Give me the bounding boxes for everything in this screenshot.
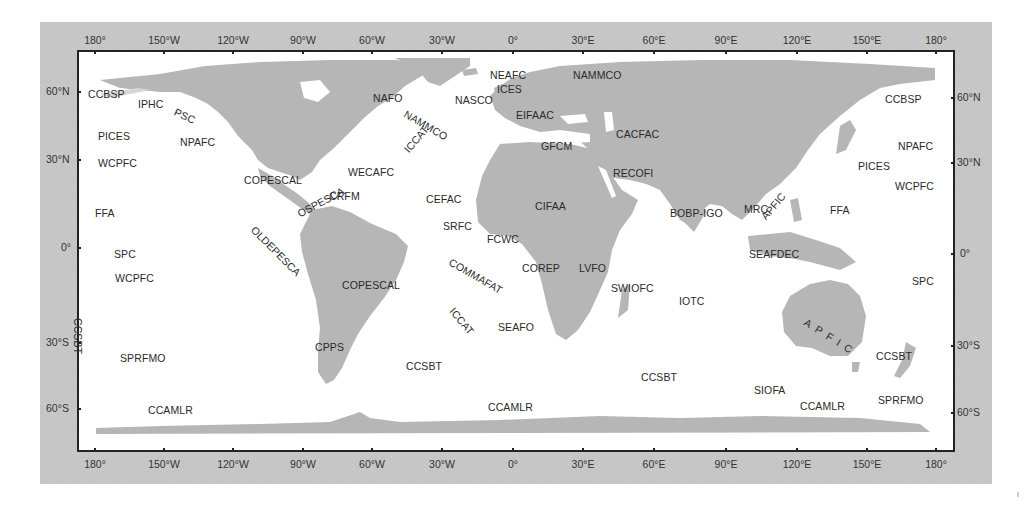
region-label-iphc: IPHC (138, 98, 164, 110)
region-label-recofi: RECOFI (613, 167, 653, 179)
region-label-cefac: CEFAC (426, 193, 462, 205)
lat-label: 0° (960, 247, 970, 259)
tick (653, 448, 655, 452)
tick (796, 50, 798, 54)
region-label-swiofc: SWIOFC (611, 282, 654, 294)
lon-label: 30°E (572, 34, 595, 46)
region-label-lvfo: LVFO (579, 262, 606, 274)
lon-label: 120°W (217, 34, 249, 46)
lon-label: 120°E (783, 458, 812, 470)
tick (935, 50, 937, 54)
tick (725, 448, 727, 452)
lon-label: 30°W (429, 458, 455, 470)
region-label-wcpfc: WCPFC (98, 157, 137, 169)
region-label-ccbsp: CCBSP (885, 93, 922, 105)
tick (77, 91, 81, 93)
lon-label: 60°W (359, 458, 385, 470)
antarctica (96, 412, 930, 434)
region-label-seafo: SEAFO (498, 321, 534, 333)
region-label-ices: ICES (497, 83, 522, 95)
lon-label: 180° (84, 458, 106, 470)
lat-label: 30°N (46, 153, 69, 165)
tick (77, 159, 81, 161)
region-label-siofa: SIOFA (754, 384, 785, 396)
tick (512, 50, 514, 54)
lon-label: 90°W (290, 34, 316, 46)
region-label-ccamlr: CCAMLR (800, 400, 845, 412)
tick (866, 448, 868, 452)
region-label-corep: COREP (522, 262, 560, 274)
region-label-crfm: CRFM (329, 190, 360, 202)
region-label-sprfmo: SPRFMO (120, 352, 166, 364)
region-label-nafo: NAFO (373, 92, 403, 104)
region-label-iotc: IOTC (679, 295, 704, 307)
lon-label: 90°E (715, 458, 738, 470)
lon-label: 120°E (783, 34, 812, 46)
tick (163, 50, 165, 54)
lon-label: 60°W (359, 34, 385, 46)
region-label-wcpfc: WCPFC (115, 272, 154, 284)
region-label-ffa: FFA (830, 204, 850, 216)
region-label-nammco: NAMMCO (573, 69, 621, 81)
region-label-cacfac: CACFAC (616, 128, 659, 140)
lat-label: 60°S (46, 402, 69, 414)
region-label-wcpfc: WCPFC (895, 180, 934, 192)
south-america (300, 206, 408, 384)
tick (302, 50, 304, 54)
lat-label: 30°S (46, 336, 69, 348)
tick (232, 50, 234, 54)
region-label-eifaac: EIFAAC (516, 109, 554, 121)
region-label-ccamlr: CCAMLR (148, 404, 193, 416)
lat-label: 60°N (46, 85, 69, 97)
region-label-copescal: COPESCAL (342, 279, 400, 291)
region-label-srfc: SRFC (443, 220, 472, 232)
region-label-cifaa: CIFAA (535, 200, 566, 212)
region-label-pices: PICES (858, 160, 890, 172)
tick (951, 253, 955, 255)
region-label-ccsbt: CCSBT (876, 350, 912, 362)
tick (582, 50, 584, 54)
region-label-ffa: FFA (95, 207, 115, 219)
north-america (100, 60, 430, 180)
lon-label: 90°E (715, 34, 738, 46)
lon-label: 0° (508, 458, 518, 470)
tick (796, 448, 798, 452)
tick (951, 345, 955, 347)
tick (582, 448, 584, 452)
tick (653, 50, 655, 54)
lon-label: 0° (508, 34, 518, 46)
region-label-gfcm: GFCM (541, 140, 572, 152)
tick (94, 50, 96, 54)
tick (866, 50, 868, 54)
region-label-ccbsp: CCBSP (88, 88, 125, 100)
region-label-spc: SPC (912, 275, 934, 287)
tick (77, 408, 81, 410)
tick (441, 448, 443, 452)
lat-label: 0° (61, 241, 71, 253)
tick (371, 50, 373, 54)
tick (725, 50, 727, 54)
region-label-ccamlr: CCAMLR (488, 401, 533, 413)
region-label-npafc: NPAFC (180, 136, 215, 148)
tick (77, 247, 81, 249)
tick (512, 448, 514, 452)
tick (94, 448, 96, 452)
lat-label: 30°S (957, 339, 980, 351)
lon-label: 120°W (217, 458, 249, 470)
lon-label: 150°W (148, 458, 180, 470)
lon-label: 180° (925, 458, 947, 470)
lon-label: 150°E (853, 34, 882, 46)
region-label-nasco: NASCO (455, 94, 493, 106)
tick (951, 162, 955, 164)
lon-label: 150°W (148, 34, 180, 46)
region-label-wecafc: WECAFC (348, 166, 394, 178)
region-label-ccsbt: CCSBT (72, 318, 84, 354)
region-label-spc: SPC (114, 248, 136, 260)
region-label-fcwc: FCWC (487, 233, 519, 245)
corner-mark (1017, 492, 1019, 497)
lon-label: 150°E (853, 458, 882, 470)
region-label-copescal: COPESCAL (244, 174, 302, 186)
tick (951, 97, 955, 99)
tick (232, 448, 234, 452)
lon-label: 90°W (290, 458, 316, 470)
